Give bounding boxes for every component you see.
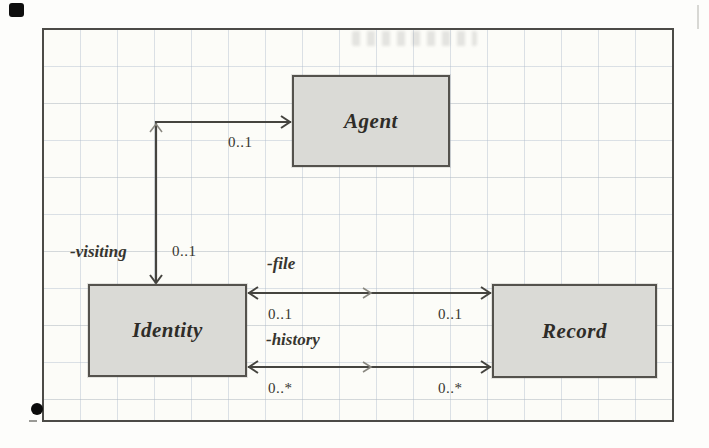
multiplicity-history-near-identity: 0..* <box>268 380 293 397</box>
scan-artifact-margin-bullet <box>31 403 43 415</box>
multiplicity-identity-agent-near-agent: 0..1 <box>228 134 253 151</box>
scan-artifact-ghost-text <box>352 31 477 46</box>
multiplicity-identity-agent-near-identity: 0..1 <box>172 243 197 260</box>
class-box-agent: Agent <box>292 75 450 167</box>
multiplicity-history-near-record: 0..* <box>438 380 463 397</box>
scan-artifact-edge-tick <box>697 5 699 29</box>
scan-artifact-corner-square <box>9 3 24 17</box>
role-label-history: -history <box>266 330 320 350</box>
class-name-record: Record <box>542 319 607 344</box>
class-name-identity: Identity <box>132 318 203 343</box>
scan-artifact-margin-dash <box>29 420 37 422</box>
scanned-uml-diagram: Agent Identity Record -visiting 0..1 0..… <box>0 0 709 448</box>
role-label-file: -file <box>267 254 295 274</box>
class-box-identity: Identity <box>88 284 247 377</box>
class-box-record: Record <box>492 284 657 378</box>
multiplicity-file-near-identity: 0..1 <box>268 306 293 323</box>
role-label-visiting: -visiting <box>70 242 127 262</box>
multiplicity-file-near-record: 0..1 <box>438 306 463 323</box>
class-name-agent: Agent <box>344 109 398 134</box>
